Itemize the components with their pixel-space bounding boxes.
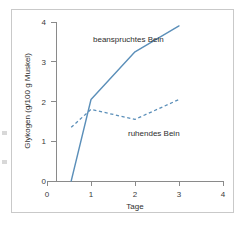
x-tick-label-2: 2 [133, 190, 138, 199]
x-tick-label-0: 0 [45, 190, 50, 199]
y-tick-label-3: 3 [42, 58, 47, 67]
figure-container: 4 3 2 1 0 0 1 2 3 4 Tage Glykogen (g/100… [0, 0, 245, 231]
y-tick-label-0: 0 [42, 177, 47, 186]
y-tick-label-2: 2 [42, 98, 47, 107]
edge-mark-lower [2, 160, 7, 164]
y-tick-label-1: 1 [42, 137, 47, 146]
series-line-beanspruchtes-bein [71, 26, 179, 181]
y-axis-title: Glykogen (g/100 g Muskel) [23, 53, 32, 149]
x-tick-label-4: 4 [221, 190, 226, 199]
y-tick-label-4: 4 [42, 18, 47, 27]
annotation-beanspruchtes-bein: beanspruchtes Bein [93, 35, 164, 44]
edge-mark-upper [2, 131, 7, 135]
x-tick-label-1: 1 [89, 190, 94, 199]
line-chart: 4 3 2 1 0 0 1 2 3 4 Tage Glykogen (g/100… [0, 0, 245, 231]
x-tick-label-3: 3 [177, 190, 182, 199]
annotation-ruhendes-bein: ruhendes Bein [128, 129, 180, 138]
x-axis-title: Tage [126, 202, 144, 211]
